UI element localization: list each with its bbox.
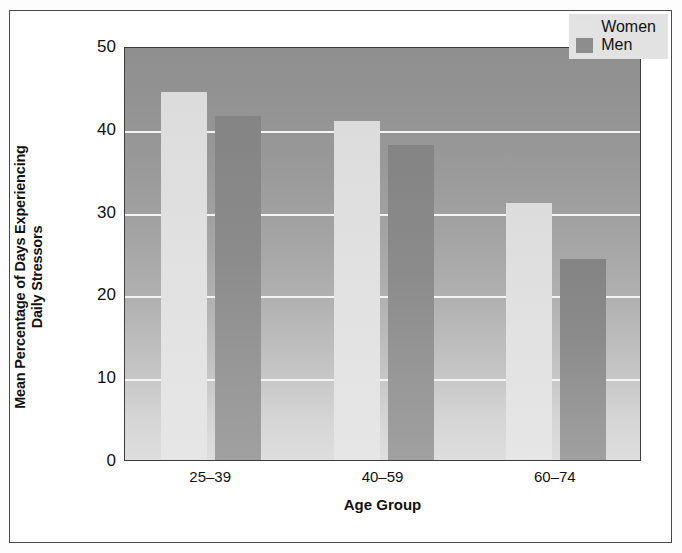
plot-area <box>124 47 641 461</box>
legend-swatch-women <box>576 20 593 35</box>
x-axis-tick-labels: 25–3940–5960–74 <box>124 468 641 492</box>
y-axis-tick-label: 0 <box>70 451 116 471</box>
figure: Mean Percentage of Days Experiencing Dai… <box>0 0 682 553</box>
x-axis-tick-label: 60–74 <box>534 468 576 485</box>
legend-item-men: Men <box>576 37 656 53</box>
bar-men-25–39 <box>215 116 261 460</box>
y-axis-tick-label: 40 <box>70 120 116 140</box>
legend-label: Men <box>601 37 632 53</box>
y-axis-tick-label: 30 <box>70 203 116 223</box>
y-axis-tick-labels: 01020304050 <box>62 47 116 461</box>
bar-women-60–74 <box>506 203 552 460</box>
legend-item-women: Women <box>576 19 656 35</box>
legend: WomenMen <box>569 14 668 59</box>
x-axis-tick-label: 40–59 <box>362 468 404 485</box>
x-axis-tick-label: 25–39 <box>189 468 231 485</box>
legend-label: Women <box>601 19 656 35</box>
bar-women-40–59 <box>334 121 380 460</box>
y-axis-tick-label: 20 <box>70 285 116 305</box>
bar-women-25–39 <box>161 92 207 460</box>
y-axis-tick-label: 50 <box>70 37 116 57</box>
bar-men-60–74 <box>560 259 606 460</box>
bar-men-40–59 <box>388 145 434 460</box>
y-axis-tick-label: 10 <box>70 368 116 388</box>
x-axis-title: Age Group <box>124 496 641 513</box>
legend-swatch-men <box>576 38 593 53</box>
